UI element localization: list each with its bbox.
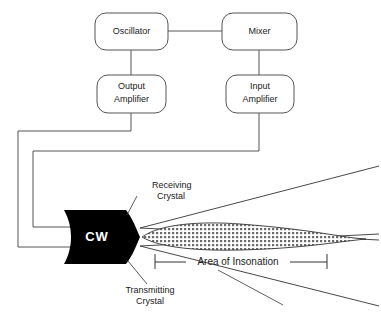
block-input-amplifier[interactable]: Input Amplifier bbox=[226, 75, 294, 113]
insonation-overlap-shape bbox=[142, 223, 366, 250]
receiving-crystal-label-line1: Receiving bbox=[152, 180, 192, 190]
block-output-amplifier[interactable]: Output Amplifier bbox=[97, 75, 166, 113]
block-mixer[interactable]: Mixer bbox=[222, 13, 297, 50]
insonation-label-leader bbox=[218, 270, 283, 305]
receiving-crystal-label-line2: Crystal bbox=[157, 191, 185, 201]
block-oscillator[interactable]: Oscillator bbox=[95, 13, 168, 50]
transmitting-crystal-label-line2: Crystal bbox=[136, 296, 164, 306]
area-of-insonation-region bbox=[142, 223, 366, 250]
wire-input-amplifier-to-transducer bbox=[33, 113, 259, 227]
mixer-label: Mixer bbox=[249, 26, 271, 36]
cw-transducer-label: CW bbox=[85, 229, 109, 244]
annotation-transmitting-crystal: Transmitting Crystal bbox=[125, 285, 174, 306]
doppler-block-diagram: Oscillator Mixer Output Amplifier Input … bbox=[0, 0, 381, 316]
oscillator-label: Oscillator bbox=[113, 26, 151, 36]
output-amplifier-label-line2: Amplifier bbox=[114, 94, 149, 104]
annotation-receiving-crystal: Receiving Crystal bbox=[152, 180, 192, 201]
wiring-group bbox=[18, 31, 259, 247]
input-amplifier-label-line2: Amplifier bbox=[242, 94, 277, 104]
transmitting-crystal-leader bbox=[128, 261, 147, 284]
cw-transducer[interactable]: CW bbox=[64, 210, 140, 264]
output-amplifier-label-line1: Output bbox=[118, 81, 146, 91]
area-of-insonation-label: Area of Insonation bbox=[197, 256, 278, 267]
transmitting-crystal-label-line1: Transmitting bbox=[125, 285, 174, 295]
input-amplifier-label-line1: Input bbox=[250, 81, 271, 91]
receiving-crystal-leader bbox=[127, 196, 137, 215]
